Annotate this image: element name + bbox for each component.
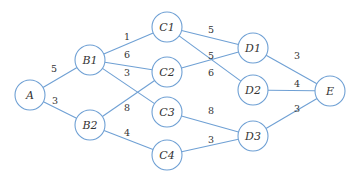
edge-weight-label: 3: [208, 134, 214, 145]
edge-d1-e: [266, 55, 317, 83]
node-e: E: [315, 76, 345, 106]
edge-a-b1: [43, 68, 77, 88]
edge-weight-label: 4: [124, 127, 130, 138]
node-label: D2: [244, 84, 261, 97]
edge-weight-label: 3: [294, 50, 300, 61]
node-c3: C3: [152, 97, 182, 127]
node-label: C4: [159, 149, 174, 162]
node-label: C1: [159, 21, 174, 34]
edge-weight-label: 5: [208, 24, 214, 35]
edge-weight-label: 3: [124, 67, 130, 78]
edge-weight-label: 3: [52, 95, 58, 106]
edge-d2-e: [268, 90, 315, 91]
node-b2: B2: [75, 110, 105, 140]
edge-c3-d3: [181, 116, 238, 132]
edge-weight-label: 6: [208, 67, 214, 78]
node-label: A: [25, 89, 34, 102]
edge-a-b2: [43, 102, 76, 119]
node-c1: C1: [152, 12, 182, 42]
node-c4: C4: [152, 140, 182, 170]
edge-d3-e: [266, 99, 317, 129]
edge-weight-label: 8: [124, 102, 130, 113]
node-d3: D3: [238, 121, 268, 151]
node-label: B1: [81, 54, 97, 67]
node-label: D3: [244, 130, 261, 143]
node-label: C2: [159, 66, 174, 79]
node-c2: C2: [152, 57, 182, 87]
node-d2: D2: [238, 75, 268, 105]
graph-diagram: 531638456583343 AB1B2C1C2C3C4D1D2D3E: [0, 0, 359, 180]
node-a: A: [15, 80, 45, 110]
edge-weight-label: 6: [124, 49, 130, 60]
edge-weight-label: 3: [294, 103, 300, 114]
edge-weight-label: 4: [294, 78, 300, 89]
node-label: C3: [159, 106, 174, 119]
node-label: D1: [244, 42, 261, 55]
node-d1: D1: [238, 33, 268, 63]
edge-weight-label: 1: [124, 31, 130, 42]
edge-weight-label: 5: [51, 63, 57, 74]
node-b1: B1: [75, 45, 105, 75]
edge-weight-label: 5: [208, 50, 214, 61]
graph-svg: 531638456583343 AB1B2C1C2C3C4D1D2D3E: [0, 0, 359, 180]
node-label: B2: [81, 119, 97, 132]
node-label: E: [325, 85, 334, 98]
edge-weight-label: 8: [208, 105, 214, 116]
